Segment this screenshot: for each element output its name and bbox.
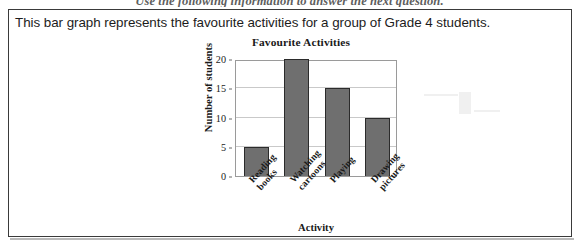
y-tick-label: 5 [221, 143, 226, 153]
y-tick-mark [229, 60, 232, 61]
chart-title: Favourite Activities [191, 36, 411, 48]
question-box: This bar graph represents the favourite … [8, 9, 572, 237]
y-tick-label: 20 [216, 55, 226, 65]
x-axis-title: Activity [235, 222, 397, 233]
question-stem: This bar graph represents the favourite … [15, 15, 490, 30]
y-axis-tick-labels: 05101520 [203, 50, 229, 180]
y-tick-mark [229, 177, 232, 178]
gridline [236, 87, 396, 88]
instruction-line: Use the following information to answer … [0, 0, 579, 7]
y-tick-label: 10 [216, 113, 226, 123]
scan-artifact [474, 110, 500, 112]
y-tick-label: 15 [216, 84, 226, 94]
scan-artifact [424, 94, 458, 96]
y-tick-mark [229, 89, 232, 90]
bar-chart: Favourite Activities Number of students … [191, 36, 411, 236]
scan-artifact [459, 92, 471, 114]
y-tick-label: 0 [221, 172, 226, 182]
y-tick-mark [229, 147, 232, 148]
y-tick-mark [229, 118, 232, 119]
x-axis-tick-labels: Reading booksWatching cartoonsPlayingDra… [235, 178, 397, 226]
